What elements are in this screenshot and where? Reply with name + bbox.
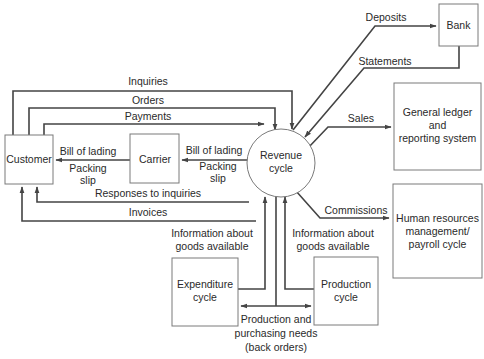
- label-bill-of-lading-carrier: Bill of lading: [186, 144, 243, 156]
- label-info-prod-2: goods available: [297, 240, 370, 252]
- label-bill-of-lading-customer: Bill of lading: [60, 145, 117, 157]
- label-packing-customer-2: slip: [80, 174, 96, 186]
- label-deposits: Deposits: [366, 11, 407, 23]
- customer-label: Customer: [6, 153, 52, 165]
- label-inquiries: Inquiries: [128, 75, 168, 87]
- label-sales: Sales: [348, 112, 374, 124]
- node-production-cycle: Production cycle: [314, 257, 378, 325]
- node-customer: Customer: [5, 135, 53, 184]
- flow-payments: [44, 124, 264, 135]
- node-carrier: Carrier: [130, 134, 179, 183]
- bank-label: Bank: [447, 19, 472, 31]
- node-revenue-cycle: Revenue cycle: [247, 129, 315, 197]
- exp-label-2: cycle: [193, 291, 217, 303]
- flow-sales: [308, 127, 391, 148]
- label-statements: Statements: [358, 55, 411, 67]
- label-needs-2: purchasing needs: [235, 327, 318, 339]
- gl-label-2: and: [429, 119, 447, 131]
- label-info-exp-1: Information about: [171, 227, 253, 239]
- label-needs-1: Production and: [241, 313, 312, 325]
- label-packing-carrier-1: Packing: [199, 160, 237, 172]
- label-packing-carrier-2: slip: [210, 172, 226, 184]
- gl-label-3: reporting system: [399, 132, 477, 144]
- label-orders: Orders: [132, 94, 164, 106]
- node-general-ledger: General ledger and reporting system: [394, 83, 481, 170]
- node-human-resources: Human resources management/ payroll cycl…: [393, 184, 482, 278]
- revenue-label-2: cycle: [269, 162, 293, 174]
- node-bank: Bank: [439, 4, 478, 46]
- gl-label-1: General ledger: [403, 106, 473, 118]
- hr-label-3: payroll cycle: [409, 238, 467, 250]
- label-responses: Responses to inquiries: [95, 187, 201, 199]
- prod-label-1: Production: [321, 278, 371, 290]
- hr-label-1: Human resources: [396, 212, 479, 224]
- label-commissions: Commissions: [324, 204, 387, 216]
- exp-label-1: Expenditure: [177, 278, 233, 290]
- revenue-cycle-context-diagram: Inquiries Orders Payments Bill of lading…: [0, 0, 484, 359]
- carrier-label: Carrier: [139, 153, 172, 165]
- hr-label-2: management/: [405, 225, 469, 237]
- label-payments: Payments: [125, 110, 172, 122]
- label-invoices: Invoices: [129, 206, 168, 218]
- revenue-label-1: Revenue: [260, 149, 302, 161]
- label-packing-customer-1: Packing: [69, 162, 107, 174]
- label-needs-3: (back orders): [245, 341, 307, 353]
- node-expenditure-cycle: Expenditure cycle: [172, 258, 238, 326]
- label-info-exp-2: goods available: [176, 240, 249, 252]
- label-info-prod-1: Information about: [292, 227, 374, 239]
- prod-label-2: cycle: [334, 291, 358, 303]
